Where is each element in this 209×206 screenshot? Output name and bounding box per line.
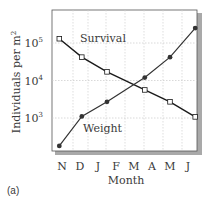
chart: 105104103 NDJFMAMJ Survival Weight Month…: [0, 0, 209, 206]
data-point-weight: [79, 114, 84, 119]
y-tick-labels: 105104103: [25, 36, 44, 125]
series-label-weight: Weight: [83, 122, 123, 135]
data-point-survival: [193, 115, 198, 120]
x-tick-label: N: [57, 160, 67, 173]
plot-shadow-bottom: [55, 151, 202, 155]
data-point-weight: [105, 99, 110, 104]
y-axis-label: Individuals per m2: [10, 31, 23, 133]
data-point-survival: [57, 36, 62, 41]
y-axis-label-superscript: 2: [10, 31, 18, 35]
series-label-survival: Survival: [80, 32, 126, 45]
data-point-weight: [57, 144, 62, 149]
y-tick-label: 105: [25, 36, 43, 50]
x-axis-label: Month: [108, 174, 144, 187]
data-point-survival: [80, 55, 85, 60]
y-axis-label-text: Individuals per m: [10, 35, 23, 133]
y-tick-label: 103: [25, 111, 43, 125]
panel-label: (a): [7, 185, 19, 196]
x-tick-label: D: [76, 160, 85, 173]
x-tick-label: F: [112, 160, 120, 173]
x-tick-labels: NDJFMAMJ: [57, 160, 190, 173]
data-point-weight: [168, 55, 173, 60]
x-tick-label: J: [95, 160, 100, 173]
data-point-weight: [193, 26, 198, 31]
x-tick-label: M: [128, 160, 139, 173]
x-tick-label: A: [147, 160, 157, 173]
data-point-survival: [143, 88, 148, 93]
data-point-survival: [105, 70, 110, 75]
data-point-survival: [168, 100, 173, 105]
plot-shadow-right: [197, 13, 202, 155]
data-point-weight: [142, 75, 147, 80]
y-tick-label: 104: [25, 74, 44, 88]
x-tick-label: J: [185, 160, 190, 173]
x-tick-label: M: [164, 160, 175, 173]
